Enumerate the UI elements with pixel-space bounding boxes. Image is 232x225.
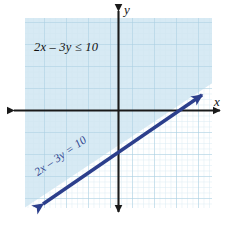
x-axis-label: x: [214, 94, 220, 110]
inequality-label-text: 2x – 3y ≤ 10: [34, 40, 98, 54]
y-axis-label: y: [124, 2, 130, 18]
coordinate-plane-svg: [0, 0, 232, 225]
inequality-label: 2x – 3y ≤ 10: [34, 40, 98, 55]
inequality-graph-figure: 2x – 3y ≤ 10 2x – 3y = 10 y x: [0, 0, 232, 225]
